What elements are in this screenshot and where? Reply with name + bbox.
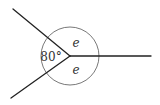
angle-diagram-svg [0,0,160,105]
angle-diagram: 80° e e [0,0,160,105]
known-angle-label: 80° [40,51,61,63]
lower-angle-label: e [72,64,79,76]
upper-angle-label: e [72,37,79,49]
